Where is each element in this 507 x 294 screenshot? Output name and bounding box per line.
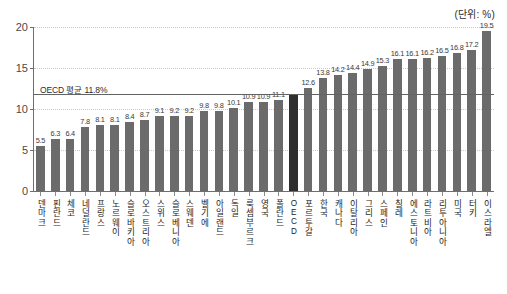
x-tick-mark <box>457 192 458 196</box>
bar-value-label: 16.5 <box>435 46 448 55</box>
bar-value-label: 5.5 <box>36 136 46 145</box>
bar-value-label: 8.1 <box>110 115 120 124</box>
bar-slot: 10.1 <box>229 27 238 191</box>
x-tick-mark <box>189 192 190 196</box>
bar-value-label: 16.2 <box>420 48 433 57</box>
x-label-체코: 체코 <box>66 199 75 218</box>
bar-slot: 11.1 <box>274 27 283 191</box>
x-label-폴란드: 폴란드 <box>274 199 283 227</box>
bar-slot: 7.8 <box>81 27 90 191</box>
x-tick-mark <box>85 192 86 196</box>
bar-덴마크 <box>36 146 45 191</box>
x-tick-mark <box>472 192 473 196</box>
y-tick-label-20: 20 <box>16 21 28 33</box>
x-label-네덜란드: 네덜란드 <box>81 199 90 237</box>
x-tick-mark <box>293 192 294 196</box>
bar-캐나다 <box>334 75 343 191</box>
bar-핀란드 <box>51 139 60 191</box>
x-label-에스토니아: 에스토니아 <box>408 199 417 246</box>
bar-slot: 13.8 <box>319 27 328 191</box>
x-label-이탈리아: 이탈리아 <box>348 199 357 237</box>
bar-폴란드 <box>274 100 283 191</box>
y-tick-label-5: 5 <box>22 144 28 156</box>
x-label-칠레: 칠레 <box>393 199 402 218</box>
x-tick-mark <box>70 192 71 196</box>
x-tick-mark <box>427 192 428 196</box>
x-tick-mark <box>40 192 41 196</box>
average-line-label: OECD 평균 11.8% <box>40 83 107 95</box>
bar-slot: 19.5 <box>482 27 491 191</box>
bar-slot: 16.1 <box>393 27 402 191</box>
bar-slot: 16.8 <box>453 27 462 191</box>
bar-네덜란드 <box>81 127 90 191</box>
chart-figure: (단위: %) 05101520 OECD 평균 11.8% 5.56.36.4… <box>0 0 507 294</box>
bar-value-label: 8.7 <box>140 110 150 119</box>
bar-터키 <box>467 50 476 191</box>
bar-스웨덴 <box>185 116 194 191</box>
bar-노르웨이 <box>110 125 119 191</box>
bar-value-label: 10.9 <box>242 92 255 101</box>
bar-영국 <box>259 102 268 191</box>
bar-value-label: 16.1 <box>391 49 404 58</box>
bar-value-label: 6.3 <box>51 129 61 138</box>
bar-slot: 8.1 <box>110 27 119 191</box>
bar-value-label: 9.8 <box>214 101 224 110</box>
bar-series: 5.56.36.47.88.18.18.48.79.19.29.29.89.81… <box>33 27 494 191</box>
bar-value-label: 13.8 <box>316 68 329 77</box>
x-label-노르웨이: 노르웨이 <box>110 199 119 237</box>
bar-value-label: 15.3 <box>376 56 389 65</box>
x-label-스웨덴: 스웨덴 <box>185 199 194 227</box>
bar-slot: 16.2 <box>423 27 432 191</box>
x-tick-mark <box>55 192 56 196</box>
x-tick-mark <box>278 192 279 196</box>
x-tick-mark <box>368 192 369 196</box>
bar-slot: 8.1 <box>96 27 105 191</box>
x-label-프랑스: 프랑스 <box>96 199 105 227</box>
bar-아일랜드 <box>215 111 224 191</box>
unit-caption: (단위: %) <box>454 6 495 21</box>
bar-slot: 6.3 <box>51 27 60 191</box>
bar-value-label: 8.1 <box>95 115 105 124</box>
x-label-캐나다: 캐나다 <box>334 199 343 227</box>
x-label-벨기에: 벨기에 <box>200 199 209 227</box>
bar-value-label: 8.4 <box>125 112 135 121</box>
bar-포르투갈 <box>304 88 313 191</box>
bar-value-label: 9.2 <box>184 106 194 115</box>
bar-value-label: 16.1 <box>406 49 419 58</box>
x-tick-mark <box>219 192 220 196</box>
x-label-OECD: OECD <box>289 199 297 236</box>
bar-이탈리아 <box>348 73 357 191</box>
x-tick-mark <box>115 192 116 196</box>
bar-value-label: 19.5 <box>480 21 493 30</box>
bar-slot: 16.5 <box>438 27 447 191</box>
x-label-덴마크: 덴마크 <box>36 199 45 227</box>
bar-체코 <box>66 139 75 191</box>
bar-slot: 15.3 <box>378 27 387 191</box>
bar-slot: 10.9 <box>244 27 253 191</box>
bar-value-label: 14.2 <box>331 65 344 74</box>
x-tick-mark <box>264 192 265 196</box>
bar-OECD <box>289 94 298 191</box>
y-tick-label-10: 10 <box>16 103 28 115</box>
bar-slot: 9.1 <box>155 27 164 191</box>
bar-스페인 <box>378 66 387 191</box>
x-label-터키: 터키 <box>467 199 476 218</box>
bar-value-label: 17.2 <box>465 40 478 49</box>
bar-value-label: 14.4 <box>346 63 359 72</box>
bar-라트비아 <box>423 58 432 191</box>
x-tick-mark <box>174 192 175 196</box>
bar-벨기에 <box>200 111 209 191</box>
bar-slot <box>289 27 298 191</box>
bar-slot: 9.2 <box>170 27 179 191</box>
bar-slot: 8.7 <box>140 27 149 191</box>
bar-룩셈부르크 <box>244 102 253 191</box>
bar-slot: 14.4 <box>348 27 357 191</box>
bar-미국 <box>453 53 462 191</box>
bar-스위스 <box>155 116 164 191</box>
x-axis-tickmarks <box>33 192 494 196</box>
x-label-독일: 독일 <box>229 199 238 218</box>
x-label-아일랜드: 아일랜드 <box>215 199 224 237</box>
bar-value-label: 6.4 <box>65 129 75 138</box>
bar-slot: 10.9 <box>259 27 268 191</box>
bar-에스토니아 <box>408 59 417 191</box>
